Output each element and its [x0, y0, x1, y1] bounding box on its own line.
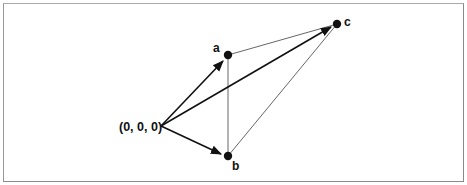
edge-a-c — [228, 24, 337, 55]
point-c-label: c — [344, 15, 351, 29]
vector-origin-b — [161, 126, 221, 154]
point-b-label: b — [232, 159, 239, 173]
point-c — [333, 20, 341, 28]
origin-label: (0, 0, 0) — [119, 120, 162, 134]
vector-origin-a — [161, 61, 223, 126]
edge-b-c — [228, 24, 337, 156]
point-a-label: a — [213, 41, 220, 55]
vector-origin-c — [161, 27, 331, 126]
point-b — [224, 152, 232, 160]
point-a — [224, 51, 232, 59]
vector-diagram: (0, 0, 0) a b c — [0, 0, 467, 185]
